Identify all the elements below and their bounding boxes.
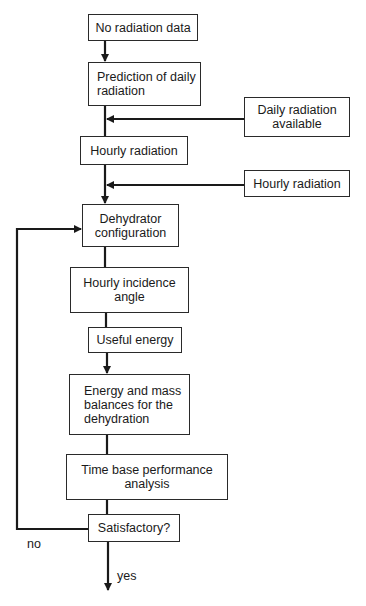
node-hourly-radiation: Hourly radiation [80,136,188,165]
node-daily-radiation-available: Daily radiation available [244,97,350,137]
node-prediction-daily-radiation: Prediction of daily radiation [88,62,201,106]
node-dehydrator-configuration: Dehydrator configuration [82,204,179,247]
node-time-base-performance: Time base performance analysis [66,454,228,500]
node-useful-energy: Useful energy [88,327,182,353]
edge-label-no: no [27,537,41,551]
node-hourly-radiation-input: Hourly radiation [244,170,350,197]
node-no-radiation-data: No radiation data [88,14,198,41]
node-satisfactory: Satisfactory? [88,514,180,542]
node-hourly-incidence-angle: Hourly incidence angle [70,267,189,313]
edge-label-yes: yes [117,569,136,583]
node-energy-mass-balances: Energy and mass balances for the dehydra… [69,374,190,435]
